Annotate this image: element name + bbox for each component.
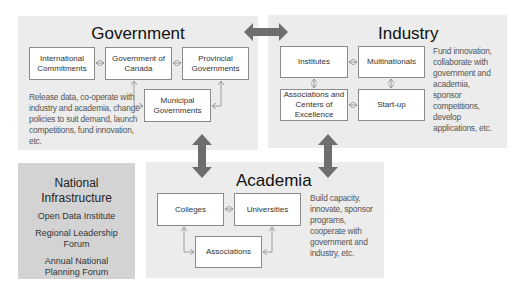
node-universities: Universities <box>234 193 301 226</box>
node-government-of-canada: Government of Canada <box>105 47 172 80</box>
industry-description: Fund innovation, collaborate with govern… <box>433 46 499 134</box>
national-item: Regional Leadership Forum <box>18 228 135 250</box>
node-provincial-governments: Provincial Governments <box>182 47 249 80</box>
node-institutes: Institutes <box>280 46 348 78</box>
node-start-up: Start-up <box>358 89 425 121</box>
node-associations: Associations <box>195 236 262 268</box>
industry-title: Industry <box>378 24 438 44</box>
academia-title: Academia <box>236 171 312 191</box>
national-item: Open Data Institute <box>18 211 135 222</box>
node-associations-centers: Associations and Centers of Excellence <box>280 89 348 121</box>
government-description: Release data, co-operate with industry a… <box>29 92 141 147</box>
national-item: Annual National Planning Forum <box>18 256 135 278</box>
national-title: National Infrastructure <box>18 176 135 206</box>
node-municipal-governments: Municipal Governments <box>144 89 211 122</box>
academia-description: Build capacity, innovate, sponsor progra… <box>310 193 380 259</box>
node-multinationals: Multinationals <box>358 46 425 78</box>
node-international-commitments: International Commitments <box>29 47 95 80</box>
node-colleges: Colleges <box>157 193 224 226</box>
national-infrastructure-panel: National Infrastructure Open Data Instit… <box>18 163 135 279</box>
government-title: Government <box>18 24 258 44</box>
